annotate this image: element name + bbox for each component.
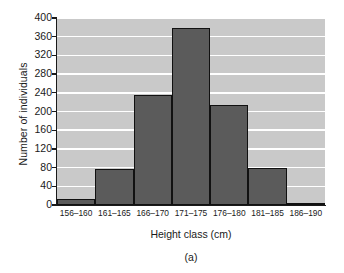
x-tick-label: 156–160 [57,208,95,218]
y-tick-label: 160 [6,123,52,135]
bar [248,168,286,205]
x-axis-ticks: 156–160161–165166–170171–175176–180181–1… [57,208,325,218]
y-tick-label: 80 [6,161,52,173]
y-tick-label: 120 [6,142,52,154]
y-tick-label: 40 [6,179,52,191]
bar [172,28,210,205]
histogram-figure: Number of individuals 040801201602002402… [0,0,344,273]
bar [134,95,172,205]
plot-area [57,18,325,205]
y-tick-label: 0 [6,198,52,210]
figure-caption: (a) [57,251,325,263]
y-tick-label: 200 [6,105,52,117]
x-tick-label: 171–175 [172,208,210,218]
bar [210,105,248,206]
bar [57,199,95,205]
y-tick-label: 400 [6,11,52,23]
bar [95,169,133,205]
bar-slot [287,18,325,205]
bar-slot [134,18,172,205]
bar-slot [95,18,133,205]
x-tick-label: 176–180 [210,208,248,218]
bar [287,203,325,205]
bar-series [57,18,325,205]
x-tick-label: 181–185 [248,208,286,218]
x-tick-label: 166–170 [134,208,172,218]
x-tick-label: 186–190 [287,208,325,218]
bar-slot [57,18,95,205]
bar-slot [248,18,286,205]
y-tick-label: 360 [6,30,52,42]
y-tick-label: 320 [6,48,52,60]
bar-slot [210,18,248,205]
x-axis-title: Height class (cm) [57,228,325,240]
y-tick-label: 280 [6,67,52,79]
x-tick-label: 161–165 [95,208,133,218]
y-tick-label: 240 [6,86,52,98]
bar-slot [172,18,210,205]
